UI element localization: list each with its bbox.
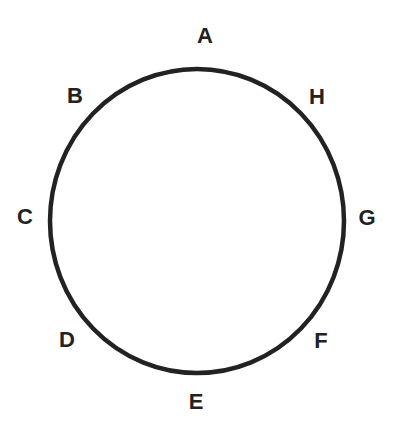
label-b: B: [67, 85, 83, 107]
circle: [50, 69, 344, 373]
label-c: C: [17, 206, 33, 228]
label-d: D: [59, 329, 75, 351]
label-e: E: [189, 391, 204, 413]
label-a: A: [197, 25, 213, 47]
label-f: F: [314, 330, 327, 352]
label-g: G: [358, 207, 375, 229]
label-h: H: [309, 86, 325, 108]
circle-diagram: [0, 0, 397, 425]
